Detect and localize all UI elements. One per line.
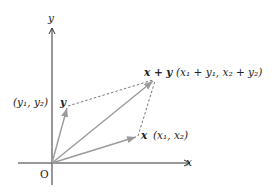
origin-label: O: [40, 168, 49, 180]
y-axis-label: y: [47, 12, 55, 24]
vector-sum-label: x + y: [143, 66, 173, 78]
vector-y-label: y: [59, 96, 67, 108]
vector-x-label: x: [140, 129, 148, 141]
vector-sum: [52, 81, 153, 163]
vector-diagram: y x O y (y₁, y₂) x (x₁, x₂) x + y (x₁ + …: [0, 0, 272, 194]
vector-sum-coords: (x₁ + y₁, x₂ + y₂): [176, 66, 262, 78]
vector-y: [52, 108, 67, 163]
x-axis-label: x: [186, 156, 192, 168]
vector-x-coords: (x₁, x₂): [153, 129, 188, 141]
dashed-x-to-sum: [138, 81, 155, 136]
vector-x: [52, 137, 136, 163]
vector-y-coords: (y₁, y₂): [13, 96, 48, 108]
dashed-y-to-sum: [68, 80, 153, 106]
